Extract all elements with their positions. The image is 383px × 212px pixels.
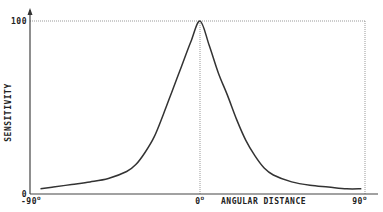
series-line-sensitivity — [41, 21, 362, 189]
y-tick-label: 100 — [11, 17, 27, 26]
degree-symbol: o — [363, 194, 367, 201]
x-tick-label: 0o — [195, 194, 204, 206]
degree-symbol: o — [201, 194, 205, 201]
y-axis-label: SENSITIVITY — [4, 83, 13, 141]
sensitivity-chart: SENSITIVITY ANGULAR DISTANCE 0100 -90o0o… — [0, 0, 383, 212]
y-axis-arrow-icon — [28, 8, 33, 15]
x-axis-label: ANGULAR DISTANCE — [221, 197, 306, 206]
x-tick-label: 90o — [352, 194, 367, 206]
degree-symbol: o — [37, 194, 41, 201]
